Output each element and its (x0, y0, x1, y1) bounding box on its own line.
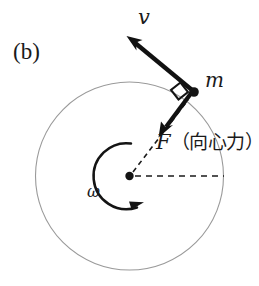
force-vector-shaft (166, 92, 192, 127)
circular-motion-figure: (b) v m F（向心力） ω (0, 0, 259, 286)
force-label-group: F（向心力） (156, 132, 259, 153)
center-dot (125, 172, 133, 180)
force-symbol-label: F (156, 132, 171, 153)
velocity-label: v (138, 7, 150, 28)
mass-label: m (205, 70, 224, 90)
force-name-label: （向心力） (171, 133, 259, 152)
panel-label: (b) (13, 40, 40, 63)
angular-velocity-label: ω (87, 184, 100, 200)
mass-point-dot (189, 87, 199, 97)
